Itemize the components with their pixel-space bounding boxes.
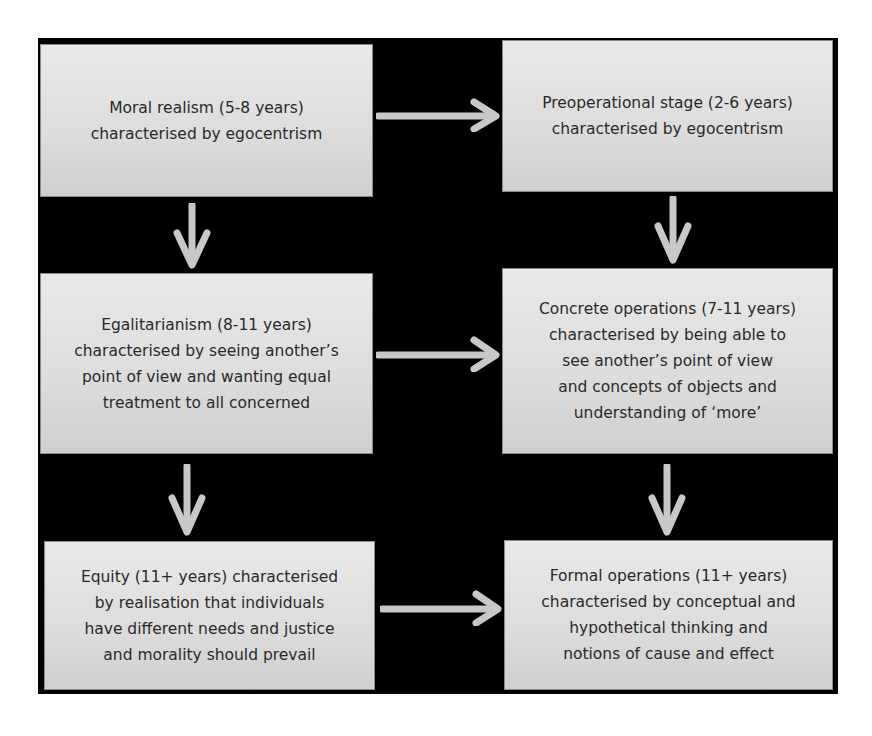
arrow-right-icon bbox=[376, 98, 502, 132]
box-moral-realism: Moral realism (5-8 years) characterised … bbox=[40, 44, 373, 197]
arrow-right-icon bbox=[376, 336, 502, 372]
arrow-down-icon bbox=[172, 203, 212, 269]
box-text: Egalitarianism (8-11 years) characterise… bbox=[74, 312, 339, 416]
box-preoperational: Preoperational stage (2-6 years) charact… bbox=[502, 40, 833, 192]
arrow-down-icon bbox=[167, 464, 207, 536]
arrow-right-icon bbox=[380, 590, 504, 626]
box-concrete-operations: Concrete operations (7-11 years) charact… bbox=[502, 268, 833, 454]
box-text: Equity (11+ years) characterised by real… bbox=[81, 564, 338, 668]
box-formal-operations: Formal operations (11+ years) characteri… bbox=[504, 540, 833, 690]
arrow-down-icon bbox=[647, 464, 687, 536]
arrow-down-icon bbox=[653, 196, 693, 264]
box-text: Concrete operations (7-11 years) charact… bbox=[539, 296, 796, 426]
box-text: Moral realism (5-8 years) characterised … bbox=[91, 95, 323, 147]
box-egalitarianism: Egalitarianism (8-11 years) characterise… bbox=[40, 273, 373, 454]
box-text: Formal operations (11+ years) characteri… bbox=[541, 563, 795, 667]
box-text: Preoperational stage (2-6 years) charact… bbox=[542, 90, 793, 142]
box-equity: Equity (11+ years) characterised by real… bbox=[44, 541, 375, 690]
